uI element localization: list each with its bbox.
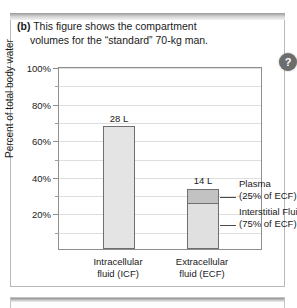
bar-segment-plasma[interactable] [188, 190, 218, 205]
ytick-mark-20 [53, 214, 59, 215]
gridline-50 [59, 160, 261, 161]
gridline-100 [59, 68, 261, 69]
ytick-label-80: 80% [32, 99, 51, 110]
ytick-label-20: 20% [32, 209, 51, 220]
xtick-label-ecf-line2: fluid (ECF) [176, 268, 228, 280]
gridline-80 [59, 105, 261, 106]
ytick-mark-100 [53, 68, 59, 69]
ytick-mark-80 [53, 105, 59, 106]
callout-plasma: Plasma (25% of ECF) [239, 178, 297, 201]
xtick-label-ecf: Extracellular fluid (ECF) [176, 256, 228, 279]
help-icon[interactable]: ? [279, 53, 297, 71]
callout-interstitial-line2: (75% of ECF) [239, 218, 297, 230]
bar-value-extracellular: 14 L [194, 175, 213, 186]
leader-line-plasma [220, 197, 236, 198]
figure-caption-line2: volumes for the “standard” 70-kg man. [17, 33, 267, 47]
xtick-label-icf-line1: Intracellular [93, 256, 142, 268]
callout-interstitial-line1: Interstitial Fluid [239, 206, 297, 218]
bar-value-intracellular: 28 L [110, 113, 129, 124]
leader-line-interstitial [220, 225, 236, 226]
ytick-mark-60 [53, 141, 59, 142]
plot-area: 100% 80% 60% 40% 20% 28 L 14 L [58, 67, 262, 250]
gridline-10 [59, 233, 261, 234]
ytick-label-60: 60% [32, 136, 51, 147]
bar-intracellular-fluid[interactable] [103, 126, 135, 249]
xtick-label-icf: Intracellular fluid (ICF) [93, 256, 142, 279]
callout-plasma-line2: (25% of ECF) [239, 190, 297, 202]
gridline-60 [59, 141, 261, 142]
bar-segment-interstitial-fluid[interactable] [188, 204, 218, 248]
figure-caption: (b) This figure shows the compartment vo… [17, 19, 267, 47]
y-axis-title: Percent of total body water [4, 39, 15, 158]
callout-interstitial-fluid: Interstitial Fluid (75% of ECF) [239, 206, 297, 229]
gridline-40 [59, 178, 261, 179]
ytick-label-40: 40% [32, 172, 51, 183]
bottom-panel-top-strip [11, 298, 284, 302]
ytick-label-100: 100% [27, 63, 51, 74]
gridline-20 [59, 214, 261, 215]
bar-chart: Percent of total body water 100% 80% 60%… [10, 50, 285, 287]
gridline-90 [59, 86, 261, 87]
xtick-label-ecf-line1: Extracellular [176, 256, 228, 268]
figure-panel-label: (b) [17, 20, 30, 32]
bar-extracellular-fluid[interactable] [187, 189, 219, 249]
gridline-70 [59, 123, 261, 124]
ytick-mark-40 [53, 178, 59, 179]
xtick-label-icf-line2: fluid (ICF) [93, 268, 142, 280]
figure-caption-line1: This figure shows the compartment [33, 20, 196, 32]
callout-plasma-line1: Plasma [239, 178, 297, 190]
